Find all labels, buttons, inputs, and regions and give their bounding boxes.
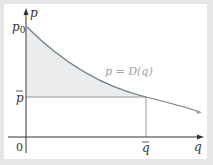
p0-label: p0 [12, 20, 26, 35]
x-axis-label: q [194, 140, 202, 154]
q-bar-label: q [142, 141, 150, 155]
y-axis-arrow-icon [24, 8, 29, 15]
curve-label: p = D(q) [105, 65, 153, 78]
consumer-surplus-region [27, 27, 146, 97]
y-axis-label: p [30, 6, 38, 20]
p-bar-label: p [16, 91, 24, 105]
x-axis-arrow-icon [197, 135, 204, 140]
origin-label: 0 [16, 141, 23, 154]
demand-curve-diagram: p p0 p 0 q q p = D(q) [0, 0, 213, 165]
curve-arrowhead-icon [196, 110, 202, 114]
